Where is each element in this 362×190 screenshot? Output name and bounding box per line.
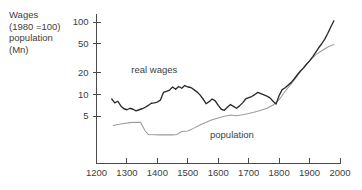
chart-canvas: 1005020105 12001300140015001600170018001…: [0, 0, 362, 190]
x-tick-label-1300: 1300: [116, 167, 137, 178]
x-tick-group: 120013001400150016001700180019002000: [86, 158, 351, 178]
series-label-population: population: [210, 129, 254, 140]
series-label-real-wages: real wages: [131, 64, 177, 75]
x-axis: 120013001400150016001700180019002000: [86, 158, 351, 178]
x-tick-label-1900: 1900: [299, 167, 320, 178]
x-tick-label-1200: 1200: [86, 167, 107, 178]
y-tick-label-100: 100: [73, 16, 89, 27]
chart-figure: Wages (1980 =100) population (Mn) 100502…: [0, 0, 362, 190]
x-tick-label-1700: 1700: [238, 167, 259, 178]
y-tick-label-50: 50: [78, 38, 89, 49]
x-tick-label-1400: 1400: [147, 167, 168, 178]
series-line-population: [113, 44, 334, 134]
x-tick-label-1500: 1500: [177, 167, 198, 178]
y-tick-label-10: 10: [78, 89, 89, 100]
x-tick-label-1600: 1600: [208, 167, 229, 178]
x-tick-label-1800: 1800: [269, 167, 290, 178]
y-tick-label-5: 5: [83, 110, 88, 121]
y-tick-label-20: 20: [78, 67, 89, 78]
y-axis: 1005020105: [73, 14, 101, 163]
x-tick-label-2000: 2000: [329, 167, 350, 178]
